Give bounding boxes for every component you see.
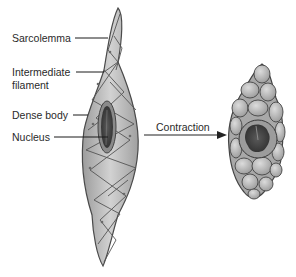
label-intermediate-filament-line1: Intermediate <box>12 66 70 78</box>
label-contraction: Contraction <box>156 121 210 133</box>
label-dense-body: Dense body <box>12 109 68 121</box>
contracted-cell <box>229 64 285 199</box>
label-sarcolemma: Sarcolemma <box>12 32 71 44</box>
label-nucleus: Nucleus <box>12 131 50 143</box>
label-intermediate-filament-line2: filament <box>12 79 49 91</box>
diagram-canvas: Sarcolemma Intermediate filament Dense b… <box>0 0 296 277</box>
